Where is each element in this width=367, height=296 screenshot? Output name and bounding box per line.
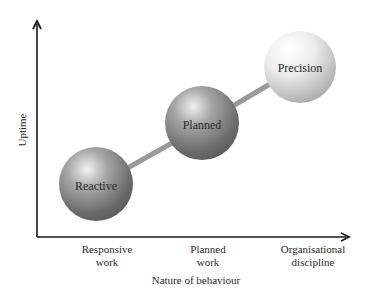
connector-reactive-planned [124,143,172,170]
stage-reactive: Reactive [59,147,133,221]
y-axis-label: Uptime [16,113,28,146]
stage-label-planned: Planned [183,118,222,132]
x-tick-planned: Planned work [190,243,226,268]
x-tick-responsive: Responsive work [82,243,133,268]
stage-label-precision: Precision [278,61,323,75]
x-axis-label: Nature of behaviour [152,274,241,286]
x-tick-label-line: Responsive [82,243,133,255]
maturity-diagram: Reactive Planned Precision Uptime Respon… [0,0,367,296]
stage-planned: Planned [165,86,239,160]
x-tick-label-line: discipline [292,256,335,268]
stage-label-reactive: Reactive [75,179,117,193]
stage-precision: Precision [264,31,336,103]
x-tick-organisational: Organisational discipline [281,243,346,268]
x-tick-label-line: Organisational [281,243,346,255]
x-tick-label-line: work [197,256,220,268]
x-tick-label-line: Planned [190,243,226,255]
x-tick-label-line: work [96,256,119,268]
